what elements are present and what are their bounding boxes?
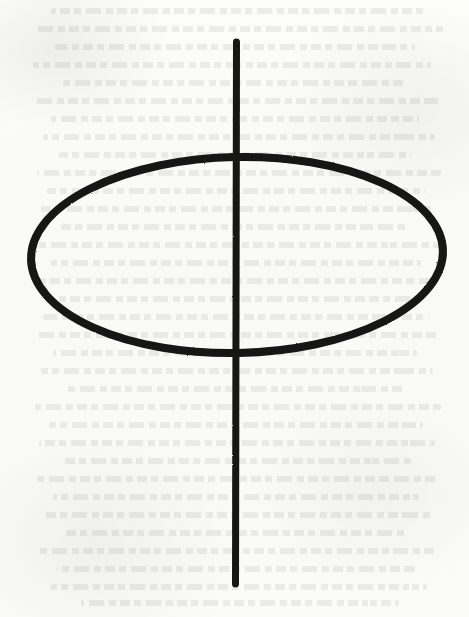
hand-drawn-figure bbox=[0, 0, 469, 617]
scanned-page bbox=[0, 0, 469, 617]
vertical-axis-line bbox=[236, 42, 237, 584]
